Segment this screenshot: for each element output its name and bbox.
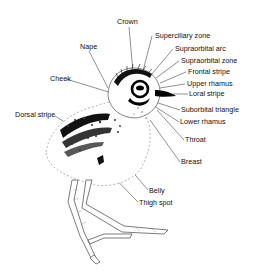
chick-diagram: Crown Superciliary zone Supraorbital arc… [0,0,256,280]
label-supraorbital-zone: Supraorbital zone [181,57,237,65]
label-dorsal-stripe: Dorsal stripe [15,111,55,119]
label-nape: Nape [80,43,97,51]
label-cheek: Cheek [50,75,71,83]
label-upper-rhamus: Upper rhamus [187,80,233,88]
chick-illustration [0,0,256,280]
label-lower-rhamus: Lower rhamus [180,118,226,126]
label-crown: Crown [117,18,138,26]
label-throat: Throat [185,136,206,144]
label-frontal-stripe: Frontal stripe [188,68,230,76]
label-loral-stripe: Loral stripe [189,90,225,98]
label-thigh-spot: Thigh spot [139,199,173,207]
label-breast: Breast [181,158,202,166]
label-superciliary-zone: Superciliary zone [155,32,210,40]
label-suborbital-triangle: Suborbital triangle [181,106,239,114]
label-belly: Belly [149,187,165,195]
label-supraorbital-arc: Supraorbital arc [175,45,226,53]
